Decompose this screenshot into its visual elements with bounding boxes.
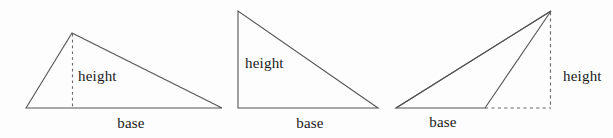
acute-triangle-outline — [26, 33, 222, 108]
obtuse-triangle-long-side — [396, 11, 551, 108]
right-triangle-height-label: height — [245, 56, 284, 71]
obtuse-triangle-base-label: base — [429, 115, 456, 130]
acute-triangle-height-label: height — [78, 69, 117, 84]
triangle-figure: height base height base height base — [0, 0, 613, 138]
acute-triangle-base-label: base — [117, 116, 144, 131]
acute-triangle-group — [26, 33, 222, 108]
obtuse-triangle-height-label: height — [563, 69, 602, 84]
right-triangle-base-label: base — [296, 116, 323, 131]
obtuse-triangle-group — [396, 11, 551, 108]
